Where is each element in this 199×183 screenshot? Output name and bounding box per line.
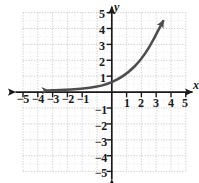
y-tick-label-4: 4 [99,24,105,36]
y-tick-label-3: 3 [99,40,105,52]
x-tick-label-5: 5 [182,97,188,109]
x-tick-label-2: 2 [138,97,144,109]
y-tick-label-neg1: −1 [95,104,107,116]
y-tick-label-neg3: −3 [95,136,107,148]
coordinate-plane-figure: −5 −4 −3 −2 −1 1 2 3 4 5 5 4 3 2 1 −1 −2… [0,0,199,183]
x-tick-label-4: 4 [168,97,174,109]
y-tick-label-neg5: −5 [95,167,107,179]
x-tick-label-neg2: −2 [62,93,74,105]
x-tick-label-neg4: −4 [32,93,44,105]
x-tick-label-neg3: −3 [47,93,59,105]
y-tick-label-5: 5 [99,8,105,20]
y-tick-label-2: 2 [99,56,105,68]
x-tick-label-3: 3 [153,97,159,109]
x-tick-label-1: 1 [124,97,130,109]
x-tick-label-neg5: −5 [17,93,29,105]
y-axis-label: y [114,1,119,13]
x-axis-label: x [193,79,199,91]
y-tick-label-1: 1 [100,72,106,84]
x-tick-label-neg1: −1 [77,93,89,105]
y-tick-label-neg4: −4 [95,152,107,164]
y-tick-label-neg2: −2 [95,120,107,132]
